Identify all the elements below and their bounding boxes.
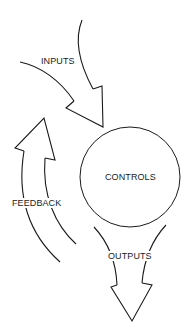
inputs-label: INPUTS	[41, 56, 75, 66]
outputs-label: OUTPUTS	[108, 251, 152, 261]
outputs-arrow	[94, 225, 166, 321]
feedback-arrow	[15, 118, 76, 262]
controls-label: CONTROLS	[105, 172, 156, 182]
feedback-label: FEEDBACK	[12, 198, 61, 208]
diagram-shapes	[0, 0, 188, 336]
diagram-canvas: INPUTS CONTROLS FEEDBACK OUTPUTS	[0, 0, 188, 336]
inputs-arrow	[20, 20, 103, 127]
